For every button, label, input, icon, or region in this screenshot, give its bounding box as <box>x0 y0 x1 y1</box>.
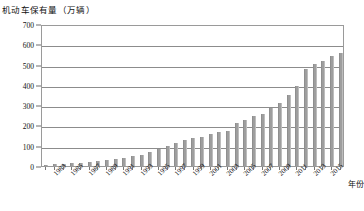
bar-slot <box>51 26 60 166</box>
bar-slot <box>103 26 112 166</box>
y-axis: 0100200300400500600700 <box>0 25 41 167</box>
bar-2005 <box>243 120 247 166</box>
x-tick-mark-2008 <box>270 167 271 170</box>
x-tick-mark-1986 <box>80 167 81 170</box>
bar-series <box>42 26 343 166</box>
x-tick-mark-1982 <box>45 167 46 170</box>
bar-slot <box>319 26 328 166</box>
x-tick-mark-2002 <box>218 167 219 170</box>
bar-slot <box>137 26 146 166</box>
x-axis-title: 年份 <box>348 178 364 189</box>
x-tick-mark-1996 <box>167 167 168 170</box>
y-tick-label-700: 700 <box>23 21 34 30</box>
bar-1995 <box>157 149 161 166</box>
bar-2006 <box>252 116 256 166</box>
bar-slot <box>293 26 302 166</box>
bar-slot <box>120 26 129 166</box>
bar-1993 <box>140 155 144 166</box>
x-tick-mark-2012 <box>305 167 306 170</box>
bar-2010 <box>287 95 291 166</box>
bar-1991 <box>122 158 126 166</box>
bar-slot <box>302 26 311 166</box>
x-tick-mark-1988 <box>97 167 98 170</box>
bar-slot <box>163 26 172 166</box>
bar-slot <box>241 26 250 166</box>
bar-slot <box>310 26 319 166</box>
bar-slot <box>328 26 337 166</box>
bar-2003 <box>226 131 230 167</box>
bar-2016 <box>339 53 343 166</box>
x-tick-mark-2006 <box>253 167 254 170</box>
bar-2007 <box>261 114 265 166</box>
y-tick-label-600: 600 <box>23 41 34 50</box>
y-tick-label-200: 200 <box>23 122 34 131</box>
x-tick-mark-2004 <box>236 167 237 170</box>
bar-slot <box>336 26 345 166</box>
x-tick-mark-2014 <box>322 167 323 170</box>
x-tick-mark-1990 <box>115 167 116 170</box>
x-tick-mark-2000 <box>201 167 202 170</box>
bar-slot <box>284 26 293 166</box>
bar-2002 <box>217 132 221 166</box>
x-tick-mark-1984 <box>63 167 64 170</box>
x-tick-mark-1994 <box>149 167 150 170</box>
bar-2004 <box>235 123 239 166</box>
y-tick-label-500: 500 <box>23 61 34 70</box>
bar-slot <box>181 26 190 166</box>
bar-2009 <box>278 103 282 166</box>
plot-area <box>41 25 344 167</box>
bar-1997 <box>174 143 178 166</box>
y-tick-label-300: 300 <box>23 102 34 111</box>
bar-2011 <box>295 86 299 166</box>
bar-slot <box>250 26 259 166</box>
bar-slot <box>94 26 103 166</box>
y-tick-label-100: 100 <box>23 142 34 151</box>
bar-slot <box>232 26 241 166</box>
bar-slot <box>68 26 77 166</box>
bar-slot <box>276 26 285 166</box>
bar-slot <box>85 26 94 166</box>
bar-1989 <box>105 160 109 166</box>
bar-slot <box>224 26 233 166</box>
bar-slot <box>42 26 51 166</box>
y-axis-title: 机动车保有量（万辆） <box>2 3 95 15</box>
y-tick-label-400: 400 <box>23 81 34 90</box>
x-tick-mark-2010 <box>288 167 289 170</box>
bar-slot <box>206 26 215 166</box>
x-axis: 年份 1983198519871989199119931995199719992… <box>41 167 344 211</box>
y-tick-label-0: 0 <box>30 163 34 172</box>
bar-slot <box>77 26 86 166</box>
bar-slot <box>59 26 68 166</box>
bar-2012 <box>304 69 308 166</box>
bar-1982 <box>44 165 48 166</box>
bar-slot <box>155 26 164 166</box>
bar-slot <box>111 26 120 166</box>
bar-slot <box>129 26 138 166</box>
bar-slot <box>258 26 267 166</box>
bar-slot <box>267 26 276 166</box>
bar-slot <box>215 26 224 166</box>
x-tick-mark-2016 <box>340 167 341 170</box>
bar-2014 <box>321 61 325 166</box>
bar-1999 <box>191 138 195 166</box>
bar-slot <box>172 26 181 166</box>
bar-slot <box>198 26 207 166</box>
bar-slot <box>146 26 155 166</box>
bar-slot <box>189 26 198 166</box>
x-tick-mark-1998 <box>184 167 185 170</box>
x-tick-mark-1992 <box>132 167 133 170</box>
bar-2015 <box>330 56 334 166</box>
bar-2008 <box>269 108 273 166</box>
bar-2013 <box>313 64 317 166</box>
bar-2001 <box>209 134 213 166</box>
bar-1987 <box>88 162 92 166</box>
